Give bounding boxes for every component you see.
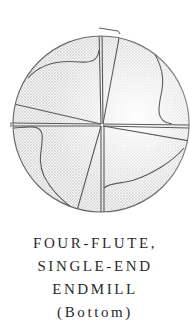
figure-caption: FOUR-FLUTE, SINGLE-END ENDMILL (Bottom) [0,232,190,324]
caption-line-4: (Bottom) [0,301,190,324]
caption-line-1: FOUR-FLUTE, [0,232,190,255]
caption-line-2: SINGLE-END [0,255,190,278]
endmill-drawing [0,0,190,227]
notch-edge [99,28,120,34]
caption-line-3: ENDMILL [0,278,190,301]
endmill-bottom-illustration [0,0,190,227]
